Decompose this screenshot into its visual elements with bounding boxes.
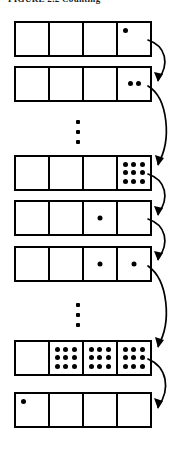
dot-grid-nine	[121, 345, 147, 371]
cell-r6c2	[50, 342, 84, 374]
cell-r4c4	[118, 202, 150, 234]
ellipsis-dot	[76, 120, 80, 124]
cell-r6c1	[16, 342, 50, 374]
cell-r6c4	[118, 342, 150, 374]
dot-grid-nine	[121, 160, 147, 186]
cell-r7c4	[118, 394, 150, 426]
dot-marker	[136, 81, 141, 86]
cell-r2c2	[50, 68, 84, 100]
cell-r3c1	[16, 157, 50, 189]
register-row-3	[14, 155, 152, 191]
register-row-1	[14, 21, 152, 57]
cell-r6c3	[84, 342, 118, 374]
register-row-2	[14, 66, 152, 102]
dot-marker	[132, 262, 137, 267]
dot-marker	[98, 262, 103, 267]
vertical-ellipsis-2	[75, 303, 81, 327]
cell-r3c3	[84, 157, 118, 189]
ellipsis-dot	[76, 140, 80, 144]
cell-r2c1	[16, 68, 50, 100]
cell-r4c3	[84, 202, 118, 234]
cell-r1c2	[50, 23, 84, 55]
cell-r1c1	[16, 23, 50, 55]
counter-figure: FIGURE 2.2 Counting	[0, 0, 175, 451]
cell-r1c3	[84, 23, 118, 55]
cell-r7c2	[50, 394, 84, 426]
cell-r7c1	[16, 394, 50, 426]
dot-marker	[123, 28, 128, 33]
dot-grid-nine	[53, 345, 79, 371]
cell-r2c4	[118, 68, 150, 100]
cell-r4c2	[50, 202, 84, 234]
dot-marker	[128, 81, 133, 86]
register-row-7	[14, 392, 152, 428]
cell-r5c1	[16, 248, 50, 280]
cell-r2c3	[84, 68, 118, 100]
cell-r1c4	[118, 23, 150, 55]
cell-r5c2	[50, 248, 84, 280]
dot-marker	[98, 216, 103, 221]
cell-r4c1	[16, 202, 50, 234]
dot-grid-nine	[87, 345, 113, 371]
cell-r3c2	[50, 157, 84, 189]
vertical-ellipsis-1	[75, 120, 81, 144]
register-row-6	[14, 340, 152, 376]
cell-r5c3	[84, 248, 118, 280]
cell-r5c4	[118, 248, 150, 280]
figure-caption-text: FIGURE 2.2 Counting	[8, 0, 160, 4]
ellipsis-dot	[76, 303, 80, 307]
dot-marker	[21, 399, 26, 404]
register-row-4	[14, 200, 152, 236]
register-row-5	[14, 246, 152, 282]
ellipsis-dot	[76, 130, 80, 134]
figure-caption-sliver: FIGURE 2.2 Counting	[8, 0, 160, 5]
ellipsis-dot	[76, 313, 80, 317]
cell-r3c4	[118, 157, 150, 189]
ellipsis-dot	[76, 323, 80, 327]
cell-r7c3	[84, 394, 118, 426]
